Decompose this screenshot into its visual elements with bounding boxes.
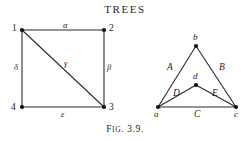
vertex-label-b: b <box>193 33 198 42</box>
vertex-4-dot <box>20 105 24 109</box>
edge-label-E: E <box>212 89 218 99</box>
vertex-3-dot <box>102 105 106 109</box>
edge-gamma-line <box>22 30 104 107</box>
figure-caption: FIG. 3.9. <box>0 124 250 134</box>
edge-label-A: A <box>167 63 173 73</box>
vertex-b-dot <box>194 44 198 48</box>
vertex-label-c: c <box>234 110 238 119</box>
edge-label-C: C <box>194 110 200 120</box>
caption-smallcaps: IG <box>112 125 121 134</box>
figure-page: TREES 1 2 3 4 <box>0 0 250 141</box>
edge-label-gamma: γ <box>64 59 67 68</box>
caption-number: . 3.9. <box>121 124 144 134</box>
vertex-label-4: 4 <box>11 103 16 113</box>
vertex-label-1: 1 <box>12 24 17 34</box>
left-graph-edges <box>22 30 104 107</box>
vertex-label-d: d <box>193 72 198 81</box>
edge-label-epsilon: ε <box>61 110 64 119</box>
vertex-label-a: a <box>154 110 159 119</box>
vertex-2-dot <box>102 28 106 32</box>
vertex-d-dot <box>194 83 198 87</box>
edge-label-D: D <box>173 89 180 99</box>
edge-label-alpha: α <box>63 21 67 30</box>
vertex-1-dot <box>20 28 24 32</box>
vertex-label-3: 3 <box>109 103 114 113</box>
edge-label-delta: δ <box>14 63 18 72</box>
edge-label-beta: β <box>107 63 111 72</box>
edge-label-B: B <box>219 63 225 73</box>
figure-graphics <box>0 0 250 141</box>
vertex-label-2: 2 <box>109 24 114 34</box>
